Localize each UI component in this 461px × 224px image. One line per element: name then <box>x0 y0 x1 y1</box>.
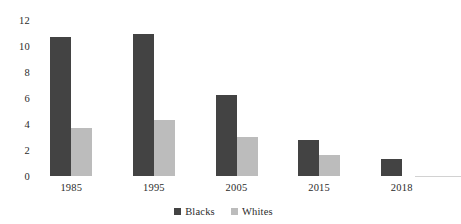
x-axis-tick-label: 1985 <box>60 182 82 193</box>
y-axis-tick-label: 2 <box>25 145 30 156</box>
plot-area <box>34 20 447 176</box>
bar-blacks-2005 <box>216 95 237 176</box>
bar-group <box>50 20 92 176</box>
bar-group <box>298 20 340 176</box>
x-axis-tick-label: 2005 <box>226 182 248 193</box>
y-axis-tick-label: 12 <box>19 15 30 26</box>
bar-whites-2005 <box>237 137 258 176</box>
y-axis-tick-label: 10 <box>19 41 30 52</box>
x-axis-tick-label: 1995 <box>143 182 165 193</box>
chart-legend: BlacksWhites <box>0 203 447 219</box>
legend-swatch-whites-icon <box>231 208 238 215</box>
bar-whites-1985 <box>71 128 92 176</box>
legend-item-blacks[interactable]: Blacks <box>174 206 215 217</box>
bar-whites-2015 <box>319 155 340 176</box>
x-axis-tick-label: 2018 <box>391 182 413 193</box>
legend-item-whites[interactable]: Whites <box>231 206 273 217</box>
y-axis-tick-label: 4 <box>25 119 30 130</box>
legend-label: Whites <box>242 206 273 217</box>
x-axis: 19851995200520152018 <box>34 182 447 198</box>
y-axis-tick-label: 0 <box>25 171 30 182</box>
y-axis: 024681012 <box>0 0 34 224</box>
legend-label: Blacks <box>185 206 215 217</box>
x-axis-tick-label: 2015 <box>308 182 330 193</box>
bar-group <box>133 20 175 176</box>
bar-blacks-2015 <box>298 140 319 176</box>
bar-blacks-1985 <box>50 37 71 176</box>
y-axis-tick-label: 8 <box>25 67 30 78</box>
bar-whites-1995 <box>154 120 175 176</box>
bar-blacks-2018 <box>381 159 402 176</box>
legend-swatch-blacks-icon <box>174 208 181 215</box>
bar-group <box>381 20 423 176</box>
baseline-stub <box>415 176 461 177</box>
bar-group <box>216 20 258 176</box>
y-axis-tick-label: 6 <box>25 93 30 104</box>
bar-blacks-1995 <box>133 34 154 176</box>
